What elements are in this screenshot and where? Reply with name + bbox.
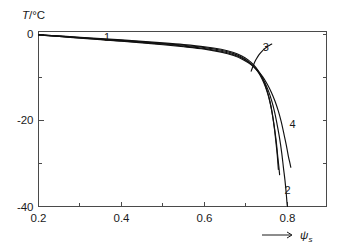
x-axis-title-subscript: s <box>308 235 312 244</box>
data-curves <box>39 35 291 207</box>
x-axis-tick-labels: 0.20.40.60.8 <box>31 212 296 224</box>
svg-text:T/°C: T/°C <box>22 9 45 21</box>
x-axis-title-symbol: ψs <box>300 229 312 244</box>
curve-4 <box>39 35 291 167</box>
curve-1 <box>39 35 279 170</box>
y-axis-tick-labels: 0-20-40 <box>17 28 34 213</box>
temperature-vs-psi-chart: 0.20.40.60.8 0-20-40 1234 T/°C ψs <box>0 0 340 247</box>
x-tick-label-0.2: 0.2 <box>31 212 47 224</box>
y-tick-label--40: -40 <box>17 201 34 213</box>
plot-frame <box>39 32 327 207</box>
curve-label-3: 3 <box>263 41 269 53</box>
y-axis-ticks <box>39 34 44 207</box>
y-tick-label-0: 0 <box>27 28 33 40</box>
x-tick-label-0.4: 0.4 <box>113 212 130 224</box>
curve-label-1: 1 <box>104 31 110 43</box>
x-axis-title: ψs <box>262 229 312 244</box>
curve-2 <box>39 35 288 207</box>
right-axis-ticks <box>323 34 327 207</box>
curve-labels: 1234 <box>104 31 296 197</box>
chart-figure: 0.20.40.60.8 0-20-40 1234 T/°C ψs <box>0 0 340 247</box>
x-tick-label-0.6: 0.6 <box>196 212 212 224</box>
x-tick-label-0.8: 0.8 <box>279 212 295 224</box>
x-axis-minor-ticks <box>80 203 246 207</box>
curve-label-2: 2 <box>284 184 290 196</box>
curve-label-4: 4 <box>289 118 295 130</box>
y-tick-label--20: -20 <box>17 114 34 126</box>
y-axis-title-unit: /°C <box>29 9 45 21</box>
y-axis-title: T/°C <box>22 9 45 21</box>
curve-3 <box>39 35 280 175</box>
